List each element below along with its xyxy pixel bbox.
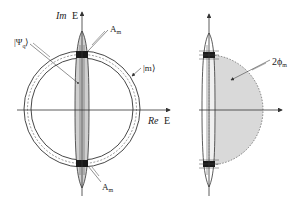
right-diagram: 2ϕm <box>199 14 287 196</box>
amplitude-label-top: Am <box>110 24 122 35</box>
left-diagram: Im E Re E |Ψq⟩ |m⟩ Am Am <box>14 10 170 196</box>
psi-pointer <box>30 44 78 83</box>
amplitude-label-bottom: Am <box>102 182 114 193</box>
amplitude-pointer-bottom <box>88 166 101 182</box>
amplitude-pointer-top <box>88 30 108 51</box>
psi-label: |Ψq⟩ <box>14 37 29 49</box>
m-label: |m⟩ <box>143 63 156 73</box>
diagram-canvas: Im E Re E |Ψq⟩ |m⟩ Am Am <box>0 0 305 203</box>
im-axis-label: Im E <box>55 10 78 21</box>
re-axis-label: Re E <box>147 115 170 126</box>
m-pointer <box>132 68 141 76</box>
phase-label: 2ϕm <box>272 56 287 68</box>
